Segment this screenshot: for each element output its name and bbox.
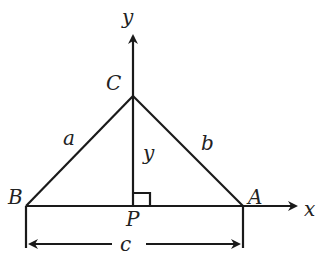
foot-p-label: P bbox=[125, 207, 140, 231]
vertex-c-label: C bbox=[106, 71, 121, 95]
base-label: c bbox=[120, 232, 131, 256]
vertex-b-label: B bbox=[7, 185, 23, 209]
altitude-label: y bbox=[142, 141, 155, 165]
right-angle-marker bbox=[133, 193, 150, 206]
side-b-label: b bbox=[201, 131, 214, 155]
x-axis-label: x bbox=[304, 197, 315, 221]
side-a-line bbox=[26, 96, 133, 206]
triangle-diagram: y x C B A P a b y c bbox=[0, 0, 322, 256]
y-axis-label: y bbox=[121, 5, 134, 29]
side-a-label: a bbox=[63, 126, 75, 150]
vertex-a-label: A bbox=[246, 185, 262, 209]
